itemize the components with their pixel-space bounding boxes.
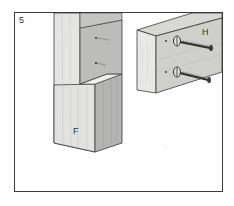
- post-f: [54, 13, 122, 152]
- label-post-f: F: [73, 126, 79, 136]
- assembly-illustration: [0, 0, 234, 206]
- label-rail-h: H: [202, 27, 209, 37]
